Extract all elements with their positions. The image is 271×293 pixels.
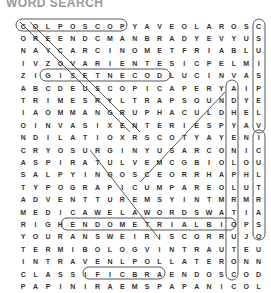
grid-cell[interactable]: E bbox=[190, 82, 202, 94]
grid-cell[interactable]: F bbox=[178, 45, 190, 57]
grid-cell[interactable]: N bbox=[178, 268, 190, 280]
grid-cell[interactable]: M bbox=[215, 193, 227, 205]
grid-cell[interactable]: L bbox=[29, 268, 41, 280]
grid-cell[interactable]: A bbox=[166, 107, 178, 119]
grid-cell[interactable]: O bbox=[215, 156, 227, 168]
grid-cell[interactable]: H bbox=[54, 218, 66, 230]
grid-cell[interactable]: I bbox=[54, 280, 66, 292]
grid-cell[interactable]: L bbox=[116, 206, 128, 218]
grid-cell[interactable]: C bbox=[104, 82, 116, 94]
grid-cell[interactable]: P bbox=[54, 169, 66, 181]
grid-cell[interactable]: C bbox=[17, 144, 29, 156]
grid-cell[interactable]: A bbox=[178, 255, 190, 267]
grid-cell[interactable]: P bbox=[17, 280, 29, 292]
grid-cell[interactable]: O bbox=[215, 144, 227, 156]
grid-cell[interactable]: E bbox=[116, 70, 128, 82]
grid-cell[interactable]: C bbox=[42, 82, 54, 94]
grid-cell[interactable]: D bbox=[29, 193, 41, 205]
grid-cell[interactable]: T bbox=[17, 181, 29, 193]
grid-cell[interactable]: N bbox=[104, 255, 116, 267]
grid-cell[interactable]: I bbox=[178, 193, 190, 205]
grid-cell[interactable]: L bbox=[252, 107, 264, 119]
grid-cell[interactable]: P bbox=[166, 181, 178, 193]
grid-cell[interactable]: A bbox=[203, 132, 215, 144]
grid-cell[interactable]: U bbox=[79, 82, 91, 94]
grid-cell[interactable]: R bbox=[203, 231, 215, 243]
grid-cell[interactable]: I bbox=[252, 132, 264, 144]
grid-cell[interactable]: C bbox=[178, 107, 190, 119]
grid-cell[interactable]: M bbox=[116, 218, 128, 230]
grid-cell[interactable]: N bbox=[129, 32, 141, 44]
grid-cell[interactable]: T bbox=[42, 255, 54, 267]
grid-cell[interactable]: H bbox=[153, 107, 165, 119]
grid-cell[interactable]: N bbox=[129, 119, 141, 131]
grid-cell[interactable]: W bbox=[91, 206, 103, 218]
grid-cell[interactable]: S bbox=[54, 268, 66, 280]
grid-cell[interactable]: S bbox=[252, 70, 264, 82]
grid-cell[interactable]: E bbox=[42, 32, 54, 44]
grid-cell[interactable]: M bbox=[141, 193, 153, 205]
grid-cell[interactable]: E bbox=[54, 32, 66, 44]
grid-cell[interactable]: I bbox=[79, 280, 91, 292]
grid-cell[interactable]: U bbox=[203, 94, 215, 106]
grid-cell[interactable]: S bbox=[91, 82, 103, 94]
grid-cell[interactable]: Y bbox=[42, 144, 54, 156]
grid-cell[interactable]: S bbox=[178, 94, 190, 106]
grid-cell[interactable]: D bbox=[178, 206, 190, 218]
grid-cell[interactable]: M bbox=[153, 156, 165, 168]
grid-cell[interactable]: R bbox=[141, 231, 153, 243]
grid-cell[interactable]: A bbox=[116, 32, 128, 44]
grid-cell[interactable]: O bbox=[104, 20, 116, 32]
grid-cell[interactable]: C bbox=[91, 32, 103, 44]
grid-cell[interactable]: I bbox=[240, 82, 252, 94]
grid-cell[interactable]: G bbox=[104, 107, 116, 119]
grid-cell[interactable]: G bbox=[42, 218, 54, 230]
grid-cell[interactable]: E bbox=[29, 243, 41, 255]
grid-cell[interactable]: A bbox=[79, 156, 91, 168]
grid-cell[interactable]: W bbox=[141, 206, 153, 218]
grid-cell[interactable]: I bbox=[240, 144, 252, 156]
grid-cell[interactable]: L bbox=[116, 156, 128, 168]
grid-cell[interactable]: O bbox=[29, 231, 41, 243]
grid-cell[interactable]: L bbox=[166, 255, 178, 267]
grid-cell[interactable]: U bbox=[240, 181, 252, 193]
grid-cell[interactable]: U bbox=[42, 231, 54, 243]
grid-cell[interactable]: V bbox=[79, 255, 91, 267]
grid-cell[interactable]: A bbox=[141, 20, 153, 32]
grid-cell[interactable]: I bbox=[166, 218, 178, 230]
grid-cell[interactable]: U bbox=[252, 243, 264, 255]
grid-cell[interactable]: S bbox=[141, 280, 153, 292]
grid-cell[interactable]: M bbox=[67, 107, 79, 119]
grid-cell[interactable]: S bbox=[153, 193, 165, 205]
grid-cell[interactable]: O bbox=[116, 243, 128, 255]
grid-cell[interactable]: Y bbox=[104, 94, 116, 106]
grid-cell[interactable]: A bbox=[79, 57, 91, 69]
grid-cell[interactable]: R bbox=[215, 231, 227, 243]
grid-cell[interactable]: V bbox=[67, 57, 79, 69]
grid-cell[interactable]: P bbox=[252, 82, 264, 94]
grid-cell[interactable]: I bbox=[29, 119, 41, 131]
grid-cell[interactable]: C bbox=[228, 268, 240, 280]
grid-cell[interactable]: E bbox=[153, 57, 165, 69]
grid-cell[interactable]: E bbox=[29, 206, 41, 218]
grid-cell[interactable]: N bbox=[42, 119, 54, 131]
grid-cell[interactable]: S bbox=[67, 144, 79, 156]
grid-cell[interactable]: Y bbox=[67, 169, 79, 181]
grid-cell[interactable]: R bbox=[178, 169, 190, 181]
grid-cell[interactable]: I bbox=[29, 70, 41, 82]
grid-cell[interactable]: R bbox=[79, 181, 91, 193]
grid-cell[interactable]: I bbox=[17, 107, 29, 119]
grid-cell[interactable]: S bbox=[166, 144, 178, 156]
grid-cell[interactable]: I bbox=[215, 218, 227, 230]
grid-cell[interactable]: I bbox=[203, 70, 215, 82]
grid-cell[interactable]: C bbox=[141, 169, 153, 181]
grid-cell[interactable]: R bbox=[252, 193, 264, 205]
grid-cell[interactable]: I bbox=[203, 156, 215, 168]
grid-cell[interactable]: A bbox=[17, 156, 29, 168]
grid-cell[interactable]: S bbox=[203, 119, 215, 131]
grid-cell[interactable]: O bbox=[141, 255, 153, 267]
grid-cell[interactable]: R bbox=[116, 107, 128, 119]
grid-cell[interactable]: I bbox=[252, 57, 264, 69]
grid-cell[interactable]: O bbox=[17, 32, 29, 44]
grid-cell[interactable]: S bbox=[67, 70, 79, 82]
